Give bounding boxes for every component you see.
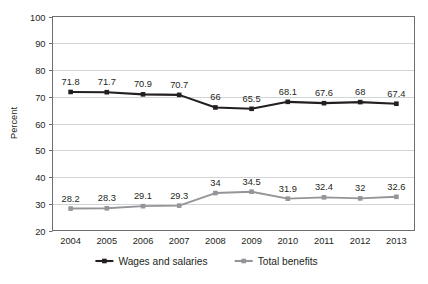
x-tick-label: 2006	[133, 236, 154, 246]
x-tick-label: 2010	[277, 236, 298, 246]
data-point-label: 71.7	[98, 77, 116, 87]
chart-canvas: 2030405060708090100 20042005200620072008…	[0, 0, 428, 284]
y-tick-label: 50	[35, 146, 45, 156]
data-point-label: 28.3	[98, 193, 116, 203]
x-tick-label: 2009	[241, 236, 262, 246]
data-point-marker	[286, 100, 291, 105]
data-point-label: 29.1	[134, 191, 152, 201]
data-point-marker	[394, 194, 399, 199]
data-point-label: 32.4	[315, 182, 333, 192]
data-point-label: 71.8	[62, 77, 80, 87]
data-point-marker	[249, 189, 254, 194]
data-point-marker	[358, 100, 363, 105]
data-point-marker	[141, 92, 146, 97]
data-point-marker	[213, 191, 218, 196]
data-point-marker	[249, 106, 254, 111]
legend-marker-swatch	[102, 259, 107, 264]
data-point-marker	[213, 105, 218, 110]
data-point-label: 66	[210, 92, 220, 102]
data-point-marker	[394, 101, 399, 106]
data-point-marker	[286, 196, 291, 201]
data-point-marker	[105, 90, 110, 95]
data-point-marker	[141, 204, 146, 209]
data-point-label: 28.2	[62, 194, 80, 204]
data-point-marker	[322, 101, 327, 106]
data-point-label: 68.1	[279, 87, 297, 97]
x-tick-label: 2011	[314, 236, 334, 246]
y-tick-label: 70	[35, 93, 45, 103]
data-point-label: 32.6	[387, 182, 405, 192]
data-point-marker	[177, 203, 182, 208]
legend-marker-swatch	[241, 259, 246, 264]
y-tick-label: 80	[35, 66, 45, 76]
y-axis-title: Percent	[9, 107, 19, 139]
clipped-caption-strip	[0, 276, 428, 284]
y-tick-label: 30	[35, 200, 45, 210]
y-tick-label: 40	[35, 173, 45, 183]
data-point-label: 34	[210, 178, 220, 188]
x-tick-label: 2005	[96, 236, 117, 246]
data-point-label: 67.6	[315, 88, 333, 98]
data-point-label: 68	[355, 87, 365, 97]
data-point-label: 70.7	[170, 80, 188, 90]
x-tick-label: 2013	[386, 236, 407, 246]
data-point-label: 65.5	[243, 94, 261, 104]
data-point-label: 29.3	[170, 191, 188, 201]
x-tick-label: 2004	[60, 236, 81, 246]
data-point-marker	[105, 206, 110, 211]
data-point-label: 70.9	[134, 79, 152, 89]
data-point-label: 67.4	[387, 89, 405, 99]
y-tick-label: 100	[30, 13, 46, 23]
y-tick-label: 60	[35, 120, 45, 130]
chart-legend: Wages and salariesTotal benefits	[95, 256, 317, 267]
data-point-label: 34.5	[243, 177, 261, 187]
legend-label: Total benefits	[258, 256, 318, 267]
y-tick-label: 20	[35, 227, 45, 237]
data-point-marker	[68, 206, 73, 211]
data-point-marker	[177, 93, 182, 98]
x-tick-label: 2007	[169, 236, 190, 246]
y-tick-label: 90	[35, 39, 45, 49]
data-point-label: 31.9	[279, 184, 297, 194]
data-point-marker	[322, 195, 327, 200]
x-tick-label: 2008	[205, 236, 226, 246]
legend-label: Wages and salaries	[118, 256, 207, 267]
data-point-marker	[358, 196, 363, 201]
data-point-marker	[68, 90, 73, 95]
line-chart-figure: 2030405060708090100 20042005200620072008…	[0, 0, 428, 284]
data-point-label: 32	[355, 183, 365, 193]
x-tick-label: 2012	[350, 236, 371, 246]
